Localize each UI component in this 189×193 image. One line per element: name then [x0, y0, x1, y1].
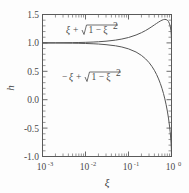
figure-container: 1.51.00.50.0-0.5-1.0 10-310-210-1100 ξ+1…	[0, 0, 189, 193]
chart-plot: 1.51.00.50.0-0.5-1.0 10-310-210-1100 ξ+1…	[0, 0, 189, 193]
upper-curve-label-operator: +	[73, 25, 78, 35]
upper-curve-label-exponent: 2	[113, 21, 118, 31]
x-tick-mantissa: 10	[166, 162, 176, 172]
x-tick-mantissa: 10	[37, 162, 47, 172]
lower-curve-label-radicand: 1 − ξ	[92, 72, 112, 83]
y-tick-label: 1.5	[27, 10, 39, 20]
lower-curve-label-exponent: 2	[116, 68, 121, 78]
x-tick-exponent: -1	[134, 160, 139, 167]
x-axis-title: ξ	[105, 176, 110, 189]
x-tick-exponent: -2	[91, 160, 96, 167]
lower-curve-label-operator: +	[76, 72, 81, 82]
y-tick-label: 0.0	[27, 95, 39, 105]
x-tick-mantissa: 10	[123, 162, 133, 172]
y-tick-label: -0.5	[24, 124, 39, 134]
y-tick-label: 1.0	[27, 38, 39, 48]
x-tick-exponent: 0	[178, 160, 181, 167]
x-tick-mantissa: 10	[80, 162, 90, 172]
lower-curve-label-sign: −	[62, 72, 67, 82]
y-tick-label: -1.0	[24, 152, 39, 162]
upper-curve-label-radicand: 1 − ξ	[89, 25, 109, 36]
y-axis-title: h	[4, 85, 16, 91]
y-tick-label: 0.5	[27, 67, 39, 77]
x-tick-exponent: -3	[48, 160, 53, 167]
